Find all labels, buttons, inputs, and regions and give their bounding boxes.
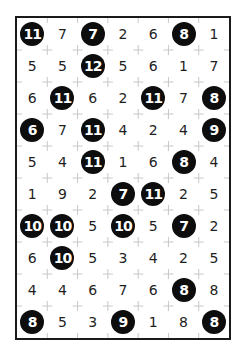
grid-cell[interactable]: 3 [108,242,138,274]
shaded-cell[interactable]: 9 [108,306,138,338]
shaded-cell[interactable]: 11 [78,146,108,178]
shaded-cell[interactable]: 7 [78,18,108,50]
cell-number: 4 [209,154,218,170]
grid-cell[interactable]: 7 [47,18,77,50]
grid-cell[interactable]: 7 [47,114,77,146]
grid-cell[interactable]: 4 [47,274,77,306]
cell-number: 8 [209,90,218,106]
grid-cell[interactable]: 2 [108,82,138,114]
cell-number: 11 [145,186,162,202]
cell-number: 2 [119,26,128,42]
grid-cell[interactable]: 2 [199,210,229,242]
shaded-cell[interactable]: 11 [138,82,168,114]
cell-number: 8 [179,282,188,298]
grid-cell[interactable]: 5 [47,306,77,338]
cell-number: 6 [88,282,97,298]
shaded-cell[interactable]: 10 [108,210,138,242]
grid-cell[interactable]: 2 [168,242,198,274]
grid-cell[interactable]: 6 [138,50,168,82]
cell-number: 7 [209,58,218,74]
shaded-cell[interactable]: 9 [199,114,229,146]
cell-number: 2 [119,90,128,106]
shaded-cell[interactable]: 6 [17,114,47,146]
grid-cell[interactable]: 2 [168,178,198,210]
grid-cell[interactable]: 1 [138,306,168,338]
grid-cell[interactable]: 8 [168,306,198,338]
grid-cell[interactable]: 5 [199,242,229,274]
shaded-cell[interactable]: 8 [17,306,47,338]
shaded-cell[interactable]: 8 [168,18,198,50]
grid-cell[interactable]: 5 [199,178,229,210]
cell-number: 12 [84,58,101,74]
cell-number: 6 [28,250,37,266]
shaded-cell[interactable]: 8 [168,274,198,306]
grid-cell[interactable]: 4 [168,114,198,146]
grid-cell[interactable]: 8 [199,274,229,306]
grid-cell[interactable]: 2 [138,114,168,146]
grid-cell[interactable]: 1 [168,50,198,82]
grid-cell[interactable]: 4 [138,242,168,274]
grid-cell[interactable]: 7 [168,82,198,114]
cell-number: 6 [149,282,158,298]
shaded-cell[interactable]: 11 [78,114,108,146]
cell-number: 9 [119,314,128,330]
grid-cell[interactable]: 4 [47,146,77,178]
grid-cell[interactable]: 6 [78,274,108,306]
shaded-cell[interactable]: 11 [138,178,168,210]
grid-cell[interactable]: 5 [78,242,108,274]
cell-number: 5 [28,58,37,74]
grid-cell[interactable]: 1 [17,178,47,210]
shaded-cell[interactable]: 11 [17,18,47,50]
grid-cell[interactable]: 1 [108,146,138,178]
shaded-cell[interactable]: 8 [168,146,198,178]
grid-cell[interactable]: 3 [78,306,108,338]
grid-cell[interactable]: 2 [78,178,108,210]
cell-number: 3 [119,250,128,266]
grid-cell[interactable]: 6 [17,82,47,114]
shaded-cell[interactable]: 10 [47,242,77,274]
grid-cell[interactable]: 5 [108,50,138,82]
grid-cell[interactable]: 9 [47,178,77,210]
grid-cell[interactable]: 4 [108,114,138,146]
grid-cell[interactable]: 6 [138,18,168,50]
shaded-cell[interactable]: 10 [47,210,77,242]
cell-number: 4 [58,154,67,170]
cell-number: 11 [54,90,71,106]
cell-number: 7 [119,282,128,298]
grid-cell[interactable]: 5 [47,50,77,82]
cell-number: 4 [58,282,67,298]
grid-cell[interactable]: 6 [138,146,168,178]
grid-cell[interactable]: 2 [108,18,138,50]
grid-cell[interactable]: 4 [17,274,47,306]
grid-cell[interactable]: 6 [17,242,47,274]
shaded-cell[interactable]: 7 [168,210,198,242]
grid-cell[interactable]: 5 [138,210,168,242]
cell-number: 5 [119,58,128,74]
shaded-cell[interactable]: 10 [17,210,47,242]
grid-cell[interactable]: 4 [199,146,229,178]
cell-number: 1 [179,58,188,74]
cell-number: 8 [179,154,188,170]
grid-cell[interactable]: 5 [78,210,108,242]
grid-cell[interactable]: 6 [78,82,108,114]
cell-number: 6 [28,90,37,106]
cell-number: 11 [145,90,162,106]
grid-cell[interactable]: 5 [17,50,47,82]
grid-cell[interactable]: 7 [108,274,138,306]
cell-number: 7 [179,90,188,106]
shaded-cell[interactable]: 7 [108,178,138,210]
grid-cell[interactable]: 7 [199,50,229,82]
shaded-cell[interactable]: 8 [199,306,229,338]
shaded-cell[interactable]: 8 [199,82,229,114]
cell-number: 2 [149,122,158,138]
shaded-cell[interactable]: 12 [78,50,108,82]
cell-number: 6 [149,58,158,74]
cell-number: 2 [209,218,218,234]
grid-cell[interactable]: 6 [138,274,168,306]
grid-cell[interactable]: 1 [199,18,229,50]
shaded-cell[interactable]: 11 [47,82,77,114]
cell-number: 1 [119,154,128,170]
cell-number: 8 [209,314,218,330]
cell-number: 1 [209,26,218,42]
grid-cell[interactable]: 5 [17,146,47,178]
